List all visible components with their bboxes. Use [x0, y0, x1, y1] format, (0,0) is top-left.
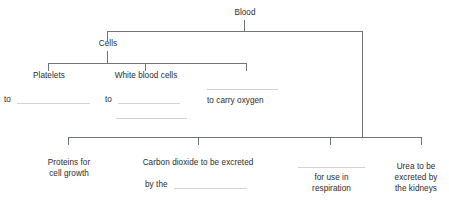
node-label-glucose-line1: for use in — [298, 173, 365, 184]
answer-blank-platelets-function[interactable] — [17, 103, 90, 104]
connector-platelets-drop — [48, 63, 49, 71]
node-label-urea-line1: Urea to be — [386, 162, 446, 173]
connector-plasma-drop — [362, 31, 363, 137]
node-label-carbon-dioxide-line1: Carbon dioxide to be excreted — [119, 158, 277, 169]
connector-carbon-dioxide-drop — [198, 137, 199, 145]
node-label-carbon-dioxide-line2-prefix: by the — [145, 180, 168, 191]
connector-red-blood-cells-drop — [246, 63, 247, 71]
connector-blood-stem — [244, 20, 245, 31]
connector-cells-stem — [107, 51, 108, 63]
answer-blank-carbon-dioxide-organ[interactable] — [174, 188, 247, 189]
node-label-white-blood-cells: White blood cells — [106, 71, 186, 82]
node-label-cells: Cells — [88, 39, 128, 50]
node-label-proteins-line2: cell growth — [38, 169, 100, 180]
connector-glucose-drop — [330, 137, 331, 145]
answer-blank-white-blood-cells-function-line1[interactable] — [118, 103, 180, 104]
connector-plasma-bar — [68, 137, 422, 138]
answer-blank-white-blood-cells-function-line2[interactable] — [116, 118, 187, 119]
node-label-urea-line2: excreted by — [386, 173, 446, 184]
connector-level2-bar — [48, 63, 246, 64]
node-label-blood: Blood — [225, 8, 265, 19]
answer-blank-glucose[interactable] — [298, 167, 365, 168]
red-blood-cells-function-label: to carry oxygen — [207, 96, 264, 107]
blood-tree-diagram: Blood Cells Platelets White blood cells … — [0, 0, 449, 203]
node-label-proteins-line1: Proteins for — [38, 158, 100, 169]
platelets-function-prefix: to — [4, 95, 11, 106]
node-label-platelets: Platelets — [20, 71, 78, 82]
connector-urea-drop — [421, 137, 422, 145]
node-label-glucose-line2: respiration — [298, 184, 365, 195]
answer-blank-red-blood-cells[interactable] — [207, 89, 278, 90]
node-label-urea-line3: the kidneys — [386, 184, 446, 195]
connector-white-blood-cells-drop — [145, 63, 146, 71]
connector-proteins-drop — [68, 137, 69, 145]
connector-level1-bar — [107, 31, 362, 32]
white-blood-cells-function-prefix: to — [105, 95, 112, 106]
